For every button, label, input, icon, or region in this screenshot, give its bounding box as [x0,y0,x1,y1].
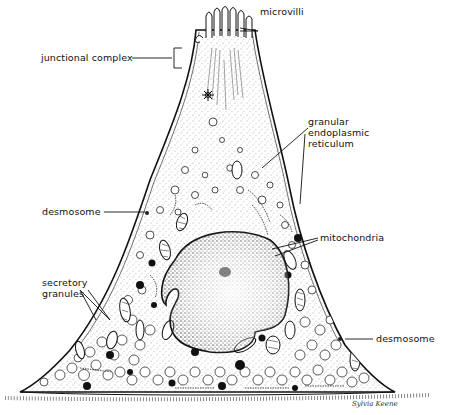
label-granular-er-line2: endoplasmic [308,127,369,138]
label-desmosome-left: desmosome [42,206,101,217]
label-secretory-line1: secretory [42,277,88,288]
artist-signature: Sylvia Keene [352,400,398,408]
label-secretory-line2: granules [42,288,84,299]
label-junctional-complex: junctional complex [41,52,133,63]
label-granular-er-line3: reticulum [308,138,354,149]
label-microvilli: microvilli [260,6,304,17]
label-granular-er-line1: granular [308,116,349,127]
label-desmosome-right: desmosome [376,333,435,344]
label-mitochondria: mitochondria [320,232,384,243]
